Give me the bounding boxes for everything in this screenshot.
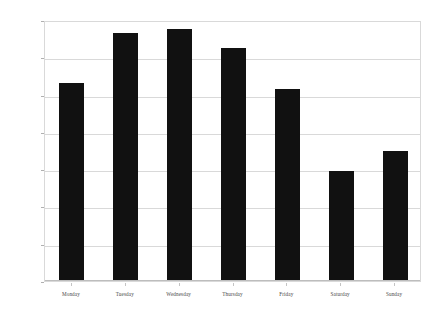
y-axis-tick-mark xyxy=(41,58,44,59)
bar xyxy=(221,48,246,281)
bar xyxy=(275,89,300,281)
x-axis-tick-label: Wednesday xyxy=(149,292,209,297)
x-axis-tick-label: Saturday xyxy=(310,292,370,297)
y-axis-tick-mark xyxy=(41,133,44,134)
y-axis-tick-mark xyxy=(41,96,44,97)
x-axis-tick-mark xyxy=(394,283,395,286)
bar xyxy=(113,33,138,281)
y-axis-tick-mark xyxy=(41,282,44,283)
x-axis-tick-label: Friday xyxy=(256,292,316,297)
x-axis-tick-mark xyxy=(125,283,126,286)
bar xyxy=(383,151,408,282)
y-axis-tick-mark xyxy=(41,245,44,246)
x-axis-tick-label: Sunday xyxy=(364,292,424,297)
bar xyxy=(329,171,354,281)
x-axis-tick-mark xyxy=(233,283,234,286)
bar xyxy=(59,83,84,281)
bar xyxy=(167,29,192,281)
x-axis-tick-label: Thursday xyxy=(203,292,263,297)
y-axis-tick-mark xyxy=(41,170,44,171)
x-axis-tick-mark xyxy=(340,283,341,286)
x-axis-tick-label: Monday xyxy=(41,292,101,297)
y-axis-tick-mark xyxy=(41,21,44,22)
x-axis-tick-mark xyxy=(286,283,287,286)
bar-chart: 050100150200250300350 MondayTuesdayWedne… xyxy=(0,0,447,318)
x-axis-tick-label: Tuesday xyxy=(95,292,155,297)
x-axis-tick-mark xyxy=(71,283,72,286)
x-axis-tick-mark xyxy=(179,283,180,286)
y-axis-tick-mark xyxy=(41,207,44,208)
x-axis-baseline xyxy=(45,280,420,281)
plot-area xyxy=(44,21,421,282)
